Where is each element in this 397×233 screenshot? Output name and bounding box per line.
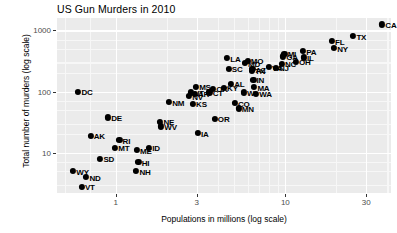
gridline-minor-x: [167, 18, 168, 193]
data-point-label: NJ: [279, 64, 289, 73]
x-tick-mark: [366, 194, 367, 197]
data-point-label: ME: [140, 146, 152, 155]
data-point-label: DC: [81, 88, 92, 97]
y-axis-title: Total number of murders (log scale): [21, 11, 31, 191]
data-point-label: ND: [90, 173, 101, 182]
data-point-label: AZ: [256, 65, 266, 74]
x-axis-title: Populations in millions (log scale): [57, 214, 391, 224]
x-tick-label: 10: [281, 198, 290, 207]
y-tick-label: 100: [38, 87, 51, 96]
gridline-minor-x: [278, 18, 279, 193]
gridline-minor-x: [269, 18, 270, 193]
gridline-minor-y: [57, 110, 391, 111]
gridline-minor-y: [57, 134, 391, 135]
chart-title: US Gun Murders in 2010: [57, 3, 175, 15]
data-point-label: NH: [139, 167, 150, 176]
gridline-minor-y: [57, 171, 391, 172]
x-tick-label: 30: [362, 198, 371, 207]
x-tick-mark: [116, 194, 117, 197]
y-tick-mark: [53, 153, 56, 154]
gridline-major-x: [285, 18, 286, 193]
y-tick-label: 1000: [33, 26, 51, 35]
data-point-label: SC: [232, 65, 243, 74]
gridline-major-x: [116, 18, 117, 193]
data-point-label: OH: [299, 58, 311, 67]
data-point-label: OR: [218, 115, 230, 124]
data-point-label: CA: [385, 20, 396, 29]
data-point-label: KY: [227, 84, 238, 93]
data-point-label: LA: [230, 54, 240, 63]
data-point-label: CO: [238, 99, 250, 108]
gridline-minor-x: [387, 18, 388, 193]
data-point-label: DE: [111, 113, 122, 122]
y-tick-mark: [53, 92, 56, 93]
y-tick-mark: [53, 30, 56, 31]
data-point-label: ID: [152, 144, 160, 153]
data-point-label: IA: [201, 129, 209, 138]
gridline-major-y: [57, 153, 391, 154]
data-point-label: HI: [142, 158, 150, 167]
x-tick-mark: [197, 194, 198, 197]
data-point-label: MT: [118, 144, 129, 153]
gridline-major-x: [366, 18, 367, 193]
data-point-label: VT: [85, 183, 95, 192]
data-point-label: MA: [257, 83, 269, 92]
data-point-label: TX: [356, 32, 366, 41]
gridline-minor-x: [218, 18, 219, 193]
data-point-label: NM: [172, 98, 184, 107]
data-point-label: AK: [94, 132, 105, 141]
x-tick-label: 3: [194, 198, 198, 207]
data-point-label: NV: [192, 92, 203, 101]
gridline-major-y: [57, 30, 391, 31]
gridline-minor-y: [57, 73, 391, 74]
y-tick-label: 10: [42, 148, 51, 157]
x-tick-label: 1: [114, 198, 118, 207]
gridline-minor-y: [57, 124, 391, 125]
x-tick-mark: [285, 194, 286, 197]
gridline-minor-x: [65, 18, 66, 193]
gridline-minor-x: [259, 18, 260, 193]
data-point-label: SD: [103, 155, 114, 164]
data-point-label: NY: [337, 44, 348, 53]
gridline-minor-y: [57, 185, 391, 186]
gridline-minor-y: [57, 62, 391, 63]
data-point-label: WV: [164, 122, 177, 131]
gridline-minor-x: [90, 18, 91, 193]
gridline-minor-y: [57, 101, 391, 102]
